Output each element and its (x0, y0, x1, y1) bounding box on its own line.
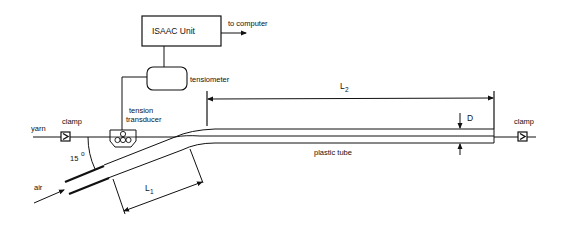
clamp-left-label: clamp (62, 117, 82, 126)
clamp-right-icon (518, 132, 527, 141)
l2-subscript: 2 (345, 86, 349, 93)
yarn-label: yarn (31, 124, 46, 133)
air-nozzle-lower (69, 178, 109, 194)
diameter-dimension: D (460, 113, 473, 155)
tensiometer-box (147, 67, 187, 90)
isaac-unit-box: ISAAC Unit (142, 16, 221, 46)
clamp-left-icon (61, 132, 70, 141)
diameter-label: D (467, 113, 473, 123)
air-nozzle-upper (65, 166, 104, 182)
to-computer-label: to computer (228, 19, 268, 28)
angle-label: 15 (70, 154, 78, 163)
transducer-label: transducer (126, 115, 162, 124)
plastic-tube-label: plastic tube (314, 148, 352, 157)
angle-arc (88, 137, 95, 169)
l2-dimension: L 2 (207, 81, 494, 129)
apparatus-diagram: ISAAC Unit to computer tensiometer tensi… (0, 0, 564, 230)
plastic-tube (104, 129, 494, 178)
clamp-right-label: clamp (514, 117, 534, 126)
tensiometer-label: tensiometer (190, 75, 230, 84)
air-label: air (34, 183, 43, 192)
angle-degree-symbol: o (81, 150, 85, 157)
isaac-unit-label: ISAAC Unit (152, 26, 196, 36)
tension-transducer-icon (110, 130, 136, 147)
tension-label: tension (129, 106, 153, 115)
l1-subscript: 1 (150, 188, 154, 195)
